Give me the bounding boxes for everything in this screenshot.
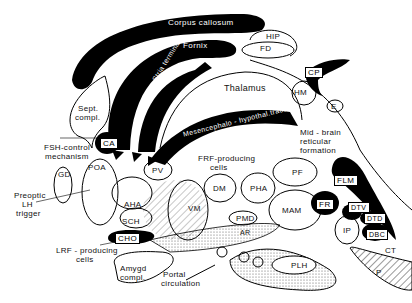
label-dtd: DTD <box>364 213 386 224</box>
label-pha: PHA <box>250 184 267 193</box>
label-hm: HM <box>294 88 307 97</box>
label-midbrain-2: reticular <box>300 137 331 146</box>
label-cho: CHO <box>115 233 140 244</box>
label-cp: CP <box>305 67 323 78</box>
label-p: P <box>376 268 382 277</box>
label-ca: CA <box>100 138 118 149</box>
label-plh: PLH <box>291 261 307 270</box>
label-lrf-1: LRF - producing <box>56 246 118 255</box>
label-lrf-2: cells <box>76 255 94 264</box>
label-frf-1: FRF-producing <box>198 154 255 163</box>
label-ct: CT <box>385 246 396 255</box>
label-fsh-1: FSH-control <box>44 143 90 152</box>
label-dm: DM <box>213 184 226 193</box>
label-portal-2: circulation <box>161 279 200 288</box>
label-dtv: DTV <box>348 202 370 213</box>
label-preoptic-3: trigger <box>16 209 41 218</box>
label-fornix: Fornix <box>183 41 208 50</box>
label-fd: FD <box>260 44 271 53</box>
label-midbrain-3: formation <box>300 146 336 155</box>
label-ar: AR <box>240 228 250 237</box>
label-midbrain-1: Mid - brain <box>300 128 341 137</box>
label-amygd-2: compl. <box>120 273 145 282</box>
label-hip: HIP <box>266 32 280 41</box>
label-aha: AHA <box>124 200 141 209</box>
label-corpus-callosum: Corpus callosum <box>168 18 234 27</box>
hypothalamus-diagram: Corpus callosum Fornix Stria terminalis … <box>0 0 412 303</box>
label-fr: FR <box>316 199 334 210</box>
label-sept-2: compl. <box>75 113 100 122</box>
label-thalamus: Thalamus <box>224 84 266 93</box>
label-e: E <box>331 102 337 111</box>
label-pmd: PMD <box>236 214 255 223</box>
label-gd: GD <box>58 170 71 179</box>
label-portal-1: Portal <box>163 270 186 279</box>
label-sept-1: Sept. <box>78 104 98 113</box>
label-pf: PF <box>292 168 303 177</box>
label-pv: PV <box>152 166 163 175</box>
label-fsh-2: mechanism <box>45 152 89 161</box>
label-vm: VM <box>188 204 201 213</box>
label-sch: SCH <box>122 217 140 226</box>
label-mam: MAM <box>282 206 302 215</box>
label-amygd-1: Amygd <box>120 264 146 273</box>
label-poa: POA <box>88 163 106 172</box>
label-preoptic-2: LH <box>22 200 33 209</box>
label-ip: IP <box>343 226 351 235</box>
label-frf-2: cells <box>210 163 228 172</box>
label-preoptic-1: Preoptic <box>14 191 46 200</box>
label-flm: FLM <box>334 175 358 186</box>
label-dbc: DBC <box>366 229 388 240</box>
